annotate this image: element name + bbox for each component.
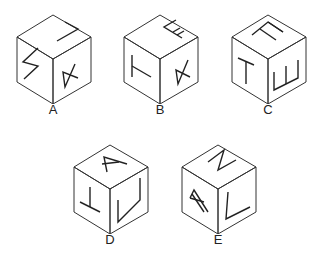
option-label-d: D	[70, 232, 150, 247]
option-label-e: E	[178, 232, 258, 247]
cube-b-glyphs	[132, 20, 190, 84]
cube-d-drawing	[70, 132, 150, 234]
cube-option-e[interactable]: E	[178, 132, 258, 250]
cube-option-b[interactable]: B	[120, 2, 200, 120]
cube-e-glyphs	[190, 150, 250, 219]
cube-c-drawing	[228, 2, 308, 104]
cube-option-c[interactable]: C	[228, 2, 308, 120]
option-label-a: A	[13, 102, 93, 117]
cube-b-drawing	[120, 2, 200, 104]
cube-option-a[interactable]: A	[13, 2, 93, 120]
cube-a-glyphs	[23, 22, 78, 87]
cube-a-drawing	[13, 2, 93, 104]
option-label-b: B	[120, 102, 200, 117]
cube-e-drawing	[178, 132, 258, 234]
cube-option-d[interactable]: D	[70, 132, 150, 250]
option-label-c: C	[228, 102, 308, 117]
